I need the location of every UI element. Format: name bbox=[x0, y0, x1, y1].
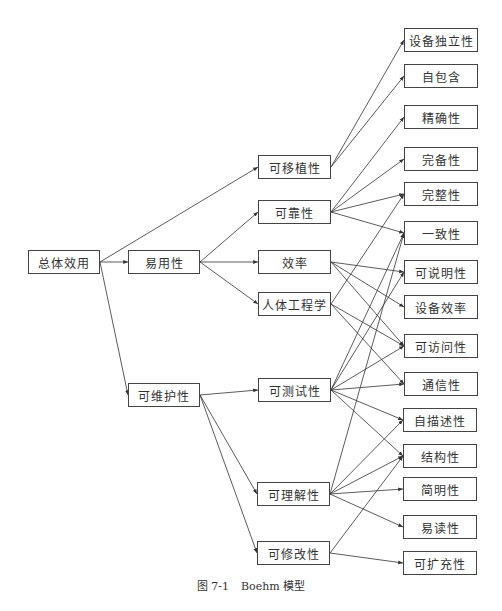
node-jmx: 简明性 bbox=[403, 477, 477, 501]
node-wbx: 完备性 bbox=[404, 147, 478, 171]
node-xiugai: 可修改性 bbox=[257, 541, 330, 565]
edge-ceshi-to-zms bbox=[331, 390, 403, 420]
node-yizhi: 可移植性 bbox=[258, 155, 331, 179]
edge-zongti-to-yizhi bbox=[100, 167, 258, 262]
node-xiaolv: 效率 bbox=[258, 250, 331, 274]
node-yiyong: 易用性 bbox=[128, 250, 200, 274]
edge-lijie-to-zms bbox=[330, 420, 403, 494]
node-ydx: 易读性 bbox=[403, 515, 477, 539]
figure-title: Boehm 模型 bbox=[241, 580, 305, 593]
node-kkc: 可扩充性 bbox=[403, 551, 477, 575]
node-kekao: 可靠性 bbox=[258, 200, 331, 224]
edge-lijie-to-ydx bbox=[330, 494, 403, 527]
node-jqx: 精确性 bbox=[404, 105, 478, 129]
node-zbh: 自包含 bbox=[404, 64, 478, 88]
edge-ceshi-to-yzx bbox=[331, 233, 404, 390]
node-wzx: 完整性 bbox=[404, 182, 478, 206]
node-sbxl: 设备效率 bbox=[404, 295, 478, 319]
edge-xiugai-to-kkc bbox=[330, 553, 403, 563]
node-zms: 自描述性 bbox=[403, 408, 477, 432]
edge-kekao-to-jqx bbox=[331, 117, 404, 212]
edge-yizhi-to-sbdl bbox=[331, 40, 404, 167]
edge-kekao-to-wzx bbox=[331, 194, 404, 212]
figure-caption: 图 7-1Boehm 模型 bbox=[0, 577, 502, 593]
node-zongti: 总体效用 bbox=[28, 250, 100, 274]
node-ceshi: 可测试性 bbox=[258, 378, 331, 402]
edge-weihu-to-xiugai bbox=[200, 395, 257, 553]
edge-renti-to-wzx bbox=[331, 194, 404, 304]
edge-lijie-to-yzx bbox=[330, 233, 404, 494]
edge-ceshi-to-kfw bbox=[331, 346, 404, 390]
edge-lijie-to-jgx bbox=[330, 456, 403, 494]
node-sbdl: 设备独立性 bbox=[404, 28, 478, 52]
edge-zongti-to-weihu bbox=[100, 262, 128, 395]
edge-kekao-to-yzx bbox=[331, 212, 404, 233]
edge-yizhi-to-zbh bbox=[331, 76, 404, 167]
edge-yiyong-to-kekao bbox=[200, 212, 258, 262]
edge-lijie-to-jmx bbox=[330, 489, 403, 494]
edge-xiaolv-to-kfw bbox=[331, 262, 404, 346]
edge-ceshi-to-jgx bbox=[331, 390, 403, 456]
edge-kekao-to-wbx bbox=[331, 159, 404, 212]
node-txx: 通信性 bbox=[404, 372, 478, 396]
edge-renti-to-kfw bbox=[331, 304, 404, 346]
edge-ceshi-to-txx bbox=[331, 384, 404, 390]
boehm-model-diagram: 总体效用易用性可维护性可移植性可靠性效率人体工程学可测试性可理解性可修改性设备独… bbox=[0, 0, 502, 611]
edge-xiaolv-to-sbxl bbox=[331, 262, 404, 307]
node-lijie: 可理解性 bbox=[257, 482, 330, 506]
node-yzx: 一致性 bbox=[404, 221, 478, 245]
node-ksm: 可说明性 bbox=[404, 260, 478, 284]
edge-weihu-to-lijie bbox=[200, 395, 257, 494]
figure-number: 图 7-1 bbox=[197, 580, 229, 593]
node-kfw: 可访问性 bbox=[404, 334, 478, 358]
node-weihu: 可维护性 bbox=[128, 383, 200, 407]
node-jgx: 结构性 bbox=[403, 444, 477, 468]
edge-xiugai-to-jgx bbox=[330, 456, 403, 553]
node-renti: 人体工程学 bbox=[258, 292, 331, 316]
edge-weihu-to-ceshi bbox=[200, 390, 258, 395]
edge-yiyong-to-renti bbox=[200, 262, 258, 304]
